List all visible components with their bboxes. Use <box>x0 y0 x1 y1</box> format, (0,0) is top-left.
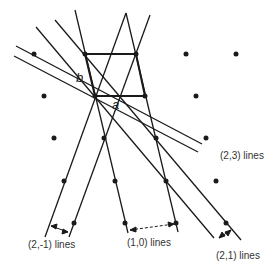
label-2-3-lines: (2,3) lines <box>220 150 264 161</box>
label-2-1-lines: (2,1) lines <box>216 250 260 261</box>
label-2-m1-lines: (2,-1) lines <box>28 239 75 250</box>
label-a: a <box>112 97 119 112</box>
line-2-1-a <box>36 27 214 238</box>
lattice-lines-svg <box>0 0 273 270</box>
line-1-0-b <box>126 13 178 232</box>
line-2-m1-a <box>45 13 126 237</box>
label-1-0-lines: (1,0) lines <box>127 237 171 248</box>
label-b: b <box>76 70 83 85</box>
line-2-m1-b <box>69 15 150 237</box>
lattice-diagram: b a (2,3) lines (2,-1) lines (1,0) lines… <box>0 0 273 270</box>
